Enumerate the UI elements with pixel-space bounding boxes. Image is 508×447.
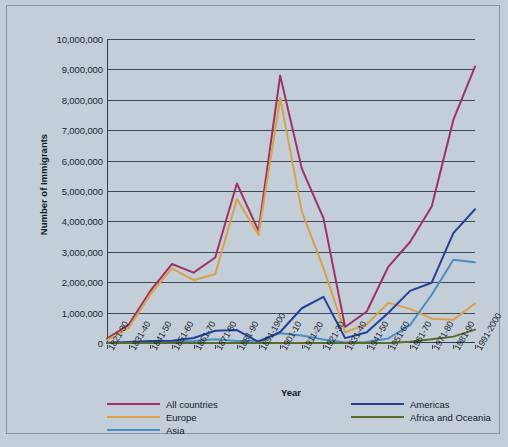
legend-swatch-icon [351,403,404,406]
y-axis-tick-label: 2,000,000 [17,277,103,288]
legend-item[interactable]: All countries [107,398,218,410]
y-axis-tick-label: 1,000,000 [17,307,103,318]
legend-label: Asia [166,425,184,436]
series-line-all-countries [107,67,475,339]
y-axis-tick-label: 4,000,000 [17,216,103,227]
legend-swatch-icon [107,416,160,419]
legend-label: Africa and Oceania [410,412,491,423]
legend-item[interactable]: Americas [351,398,491,410]
legend-item[interactable]: Asia [107,424,218,436]
x-axis-title: Year [107,387,475,398]
series-lines [107,39,475,343]
legend-label: Americas [410,399,450,410]
legend-label: All countries [166,399,218,410]
legend-swatch-icon [107,429,160,432]
y-axis-tick-label: 8,000,000 [17,94,103,105]
legend-item[interactable]: Europe [107,411,218,423]
y-axis-tick-label: 5,000,000 [17,186,103,197]
chart-frame: Number of Immigrants 01,000,0002,000,000… [6,5,500,434]
legend-column-left: All countriesEuropeAsia [107,398,218,437]
y-axis-tick-label: 10,000,000 [17,34,103,45]
legend-item[interactable]: Africa and Oceania [351,411,491,423]
y-axis-tick-label: 6,000,000 [17,155,103,166]
x-axis-tick-label: 1991-2000 [474,311,503,352]
chart-legend: All countriesEuropeAsia AmericasAfrica a… [21,398,491,434]
plot-area [107,39,475,343]
chart-page: Number of Immigrants 01,000,0002,000,000… [0,0,508,447]
series-line-europe [107,98,475,340]
legend-swatch-icon [107,403,160,406]
y-axis-tick-label: 0 [17,338,103,349]
y-axis-tick-label: 9,000,000 [17,64,103,75]
legend-swatch-icon [351,416,404,419]
y-axis-tick-label: 7,000,000 [17,125,103,136]
y-axis-labels: Number of Immigrants 01,000,0002,000,000… [13,39,103,343]
y-axis-tick-label: 3,000,000 [17,246,103,257]
legend-column-right: AmericasAfrica and Oceania [351,398,491,424]
legend-label: Europe [166,412,197,423]
